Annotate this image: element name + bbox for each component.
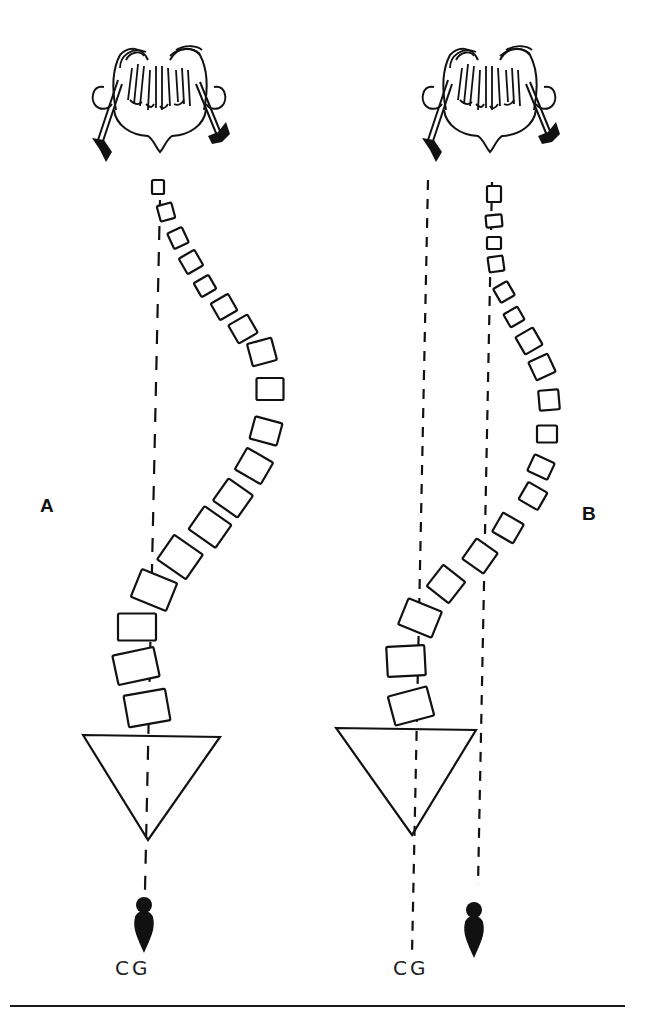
vertebra xyxy=(492,512,524,543)
vertebra xyxy=(488,256,505,273)
vertebra xyxy=(386,645,426,677)
plumb-line xyxy=(412,180,428,955)
vertebra xyxy=(152,180,164,194)
vertebra xyxy=(188,506,231,548)
vertebra xyxy=(247,338,277,367)
vertebra xyxy=(538,389,560,411)
vertebra xyxy=(250,416,283,445)
center-of-gravity-label-a: CG xyxy=(115,956,150,980)
skull-icon xyxy=(422,46,560,162)
pelvis-triangle xyxy=(83,735,220,840)
center-of-gravity-label-b: CG xyxy=(393,956,428,980)
vertebra xyxy=(462,538,498,573)
vertebra xyxy=(398,598,442,637)
vertebra xyxy=(124,689,171,728)
vertebra xyxy=(228,314,258,343)
skull-icon xyxy=(92,46,230,162)
pelvis-triangle xyxy=(336,728,476,835)
vertebra xyxy=(518,482,547,510)
spine-figure-a xyxy=(83,46,284,953)
vertebra xyxy=(257,378,284,400)
vertebra xyxy=(527,454,555,480)
spine-figure-b xyxy=(336,46,560,958)
panel-label-b: B xyxy=(582,503,596,525)
vertebra xyxy=(503,307,524,328)
vertebra xyxy=(194,275,217,297)
vertebra xyxy=(157,202,176,221)
plumb-line xyxy=(478,182,492,885)
vertebra xyxy=(388,686,434,725)
vertebra xyxy=(427,565,466,604)
vertebra xyxy=(112,647,159,685)
vertebra xyxy=(487,186,501,202)
vertebra xyxy=(131,569,177,611)
vertebra xyxy=(179,250,204,275)
vertebra xyxy=(537,426,557,443)
panel-label-a: A xyxy=(40,495,54,517)
vertebra xyxy=(118,614,156,641)
scoliosis-diagram xyxy=(0,0,650,1017)
vertebra xyxy=(528,353,555,380)
plumb-line xyxy=(145,200,160,890)
vertebra xyxy=(211,294,238,320)
vertebra xyxy=(493,281,515,303)
vertebra xyxy=(487,237,501,249)
vertebra xyxy=(157,535,203,580)
plumb-bob-icon xyxy=(134,897,154,953)
figure-baseline-rule xyxy=(10,1005,625,1007)
vertebra xyxy=(167,227,189,249)
vertebra xyxy=(235,448,273,485)
vertebra xyxy=(486,214,503,227)
vertebra xyxy=(213,478,253,517)
plumb-bob-icon xyxy=(464,902,484,958)
vertebra xyxy=(515,327,542,354)
